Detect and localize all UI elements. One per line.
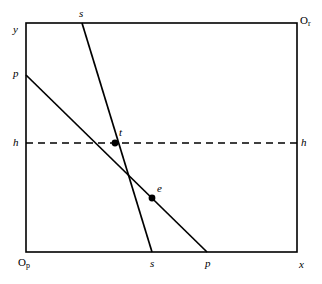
axis-label-x: x xyxy=(299,259,304,270)
p-line xyxy=(26,75,207,252)
origin-label-or: Or xyxy=(300,15,311,26)
origin-or-main: O xyxy=(300,14,308,26)
s-line-label-bottom: s xyxy=(150,258,154,269)
p-line-label-bottom: p xyxy=(205,258,211,269)
point-label-e: e xyxy=(157,183,162,194)
point-label-t: t xyxy=(119,127,122,138)
origin-label-op: Op xyxy=(18,257,30,268)
diagram-canvas xyxy=(0,0,322,284)
origin-or-sub: r xyxy=(308,19,311,28)
p-line-label-left: p xyxy=(13,68,19,79)
edgeworth-box-figure: y Or Op x s s p p h h t e xyxy=(0,0,322,284)
box-border xyxy=(26,23,297,252)
h-line-label-right: h xyxy=(301,137,307,148)
origin-op-main: O xyxy=(18,256,26,268)
h-line-label-left: h xyxy=(13,137,19,148)
s-line-label-top: s xyxy=(79,8,83,19)
axis-label-y: y xyxy=(13,24,18,35)
point-t-marker xyxy=(112,140,119,147)
origin-op-sub: p xyxy=(26,261,30,270)
point-e-marker xyxy=(149,195,156,202)
s-line xyxy=(82,23,152,252)
